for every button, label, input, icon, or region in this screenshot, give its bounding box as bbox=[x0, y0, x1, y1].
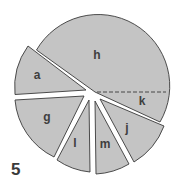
label-m: m bbox=[100, 137, 111, 151]
pie-diagram: h k a g l m j bbox=[0, 0, 177, 191]
figure-number: 5 bbox=[11, 160, 20, 180]
label-l: l bbox=[73, 136, 76, 150]
label-a: a bbox=[34, 68, 41, 82]
label-h: h bbox=[93, 48, 100, 62]
label-g: g bbox=[43, 110, 50, 124]
label-k: k bbox=[139, 94, 146, 108]
label-j: j bbox=[124, 121, 128, 135]
